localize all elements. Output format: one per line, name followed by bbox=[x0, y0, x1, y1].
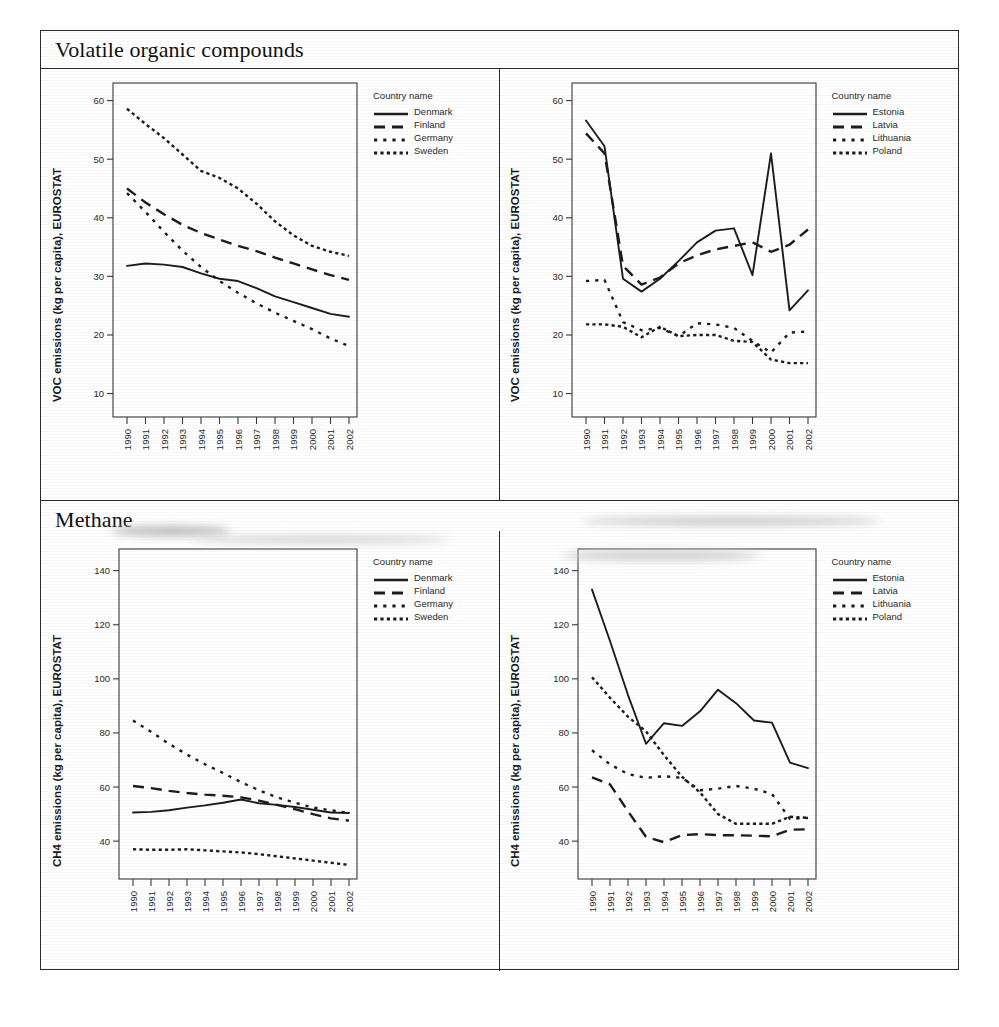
y-axis-label: CH4 emissions (kg per capita), EUROSTAT bbox=[47, 531, 67, 971]
svg-text:1992: 1992 bbox=[622, 891, 633, 912]
svg-text:1997: 1997 bbox=[710, 429, 721, 450]
svg-text:2000: 2000 bbox=[765, 429, 776, 450]
svg-text:2002: 2002 bbox=[344, 891, 355, 912]
section-title-voc: Volatile organic compounds bbox=[41, 31, 958, 69]
svg-text:1996: 1996 bbox=[233, 429, 244, 450]
panel-ch4-baltic: CH4 emissions (kg per capita), EUROSTAT … bbox=[500, 531, 959, 971]
svg-text:1992: 1992 bbox=[159, 429, 170, 450]
svg-text:1998: 1998 bbox=[272, 891, 283, 912]
legend-line-swatch-icon bbox=[832, 121, 868, 130]
svg-text:1998: 1998 bbox=[270, 429, 281, 450]
svg-text:1990: 1990 bbox=[128, 891, 139, 912]
svg-text:1992: 1992 bbox=[164, 891, 175, 912]
legend-title: Country name bbox=[832, 89, 912, 104]
legend-item-label: Sweden bbox=[414, 610, 448, 625]
legend-title: Country name bbox=[832, 555, 912, 570]
svg-text:30: 30 bbox=[93, 271, 104, 282]
svg-text:1993: 1993 bbox=[182, 891, 193, 912]
legend-item-latvia[interactable]: Latvia bbox=[832, 585, 912, 598]
svg-text:2001: 2001 bbox=[784, 429, 795, 450]
section-volatile-organic-compounds: Volatile organic compounds VOC emissions… bbox=[41, 31, 958, 501]
svg-text:2002: 2002 bbox=[344, 429, 355, 450]
legend-title: Country name bbox=[373, 555, 453, 570]
svg-text:40: 40 bbox=[93, 212, 104, 223]
legend-item-finland[interactable]: Finland bbox=[373, 585, 453, 598]
legend-item-lithuania[interactable]: Lithuania bbox=[832, 132, 912, 145]
legend-line-swatch-icon bbox=[373, 587, 409, 596]
svg-text:2000: 2000 bbox=[766, 891, 777, 912]
svg-text:50: 50 bbox=[552, 154, 563, 165]
legend-line-swatch-icon bbox=[832, 134, 868, 143]
legend-item-estonia[interactable]: Estonia bbox=[832, 106, 912, 119]
svg-text:50: 50 bbox=[93, 154, 104, 165]
legend-ch4-baltic: Country nameEstoniaLatviaLithuaniaPoland bbox=[832, 555, 912, 624]
svg-text:140: 140 bbox=[553, 565, 569, 576]
svg-text:20: 20 bbox=[552, 329, 563, 340]
svg-text:1994: 1994 bbox=[196, 429, 207, 450]
legend-item-label: Poland bbox=[873, 610, 903, 625]
legend-line-swatch-icon bbox=[373, 121, 409, 130]
svg-text:60: 60 bbox=[93, 95, 104, 106]
svg-text:30: 30 bbox=[552, 271, 563, 282]
legend-line-swatch-icon bbox=[373, 600, 409, 609]
svg-text:1994: 1994 bbox=[658, 891, 669, 912]
legend-item-sweden[interactable]: Sweden bbox=[373, 611, 453, 624]
y-axis-label: VOC emissions (kg per capita), EUROSTAT bbox=[47, 69, 67, 501]
legend-title: Country name bbox=[373, 89, 453, 104]
legend-line-swatch-icon bbox=[832, 600, 868, 609]
svg-text:80: 80 bbox=[558, 727, 569, 738]
svg-text:60: 60 bbox=[558, 782, 569, 793]
svg-text:1999: 1999 bbox=[747, 429, 758, 450]
legend-line-swatch-icon bbox=[373, 147, 409, 156]
legend-line-swatch-icon bbox=[373, 134, 409, 143]
legend-line-swatch-icon bbox=[832, 574, 868, 583]
legend-item-sweden[interactable]: Sweden bbox=[373, 145, 453, 158]
legend-item-germany[interactable]: Germany bbox=[373, 132, 453, 145]
svg-text:1998: 1998 bbox=[728, 429, 739, 450]
svg-text:1997: 1997 bbox=[251, 429, 262, 450]
legend-item-finland[interactable]: Finland bbox=[373, 119, 453, 132]
svg-text:80: 80 bbox=[99, 727, 110, 738]
legend-item-estonia[interactable]: Estonia bbox=[832, 572, 912, 585]
svg-text:20: 20 bbox=[93, 329, 104, 340]
legend-item-denmark[interactable]: Denmark bbox=[373, 572, 453, 585]
svg-text:1990: 1990 bbox=[580, 429, 591, 450]
svg-text:2000: 2000 bbox=[308, 891, 319, 912]
legend-item-germany[interactable]: Germany bbox=[373, 598, 453, 611]
svg-text:2002: 2002 bbox=[802, 891, 813, 912]
legend-item-lithuania[interactable]: Lithuania bbox=[832, 598, 912, 611]
svg-text:1995: 1995 bbox=[673, 429, 684, 450]
svg-text:1993: 1993 bbox=[636, 429, 647, 450]
svg-text:2000: 2000 bbox=[307, 429, 318, 450]
legend-line-swatch-icon bbox=[832, 613, 868, 622]
legend-item-poland[interactable]: Poland bbox=[832, 145, 912, 158]
svg-text:1998: 1998 bbox=[730, 891, 741, 912]
panel-voc-baltic: VOC emissions (kg per capita), EUROSTAT … bbox=[500, 69, 959, 501]
svg-text:1991: 1991 bbox=[146, 891, 157, 912]
svg-text:120: 120 bbox=[553, 619, 569, 630]
svg-text:60: 60 bbox=[552, 95, 563, 106]
svg-text:10: 10 bbox=[552, 388, 563, 399]
svg-text:2001: 2001 bbox=[784, 891, 795, 912]
y-axis-label: VOC emissions (kg per capita), EUROSTAT bbox=[506, 69, 526, 501]
svg-text:1991: 1991 bbox=[604, 891, 615, 912]
svg-text:1994: 1994 bbox=[200, 891, 211, 912]
svg-text:2002: 2002 bbox=[802, 429, 813, 450]
svg-text:120: 120 bbox=[94, 619, 110, 630]
svg-text:2001: 2001 bbox=[326, 891, 337, 912]
svg-text:1997: 1997 bbox=[254, 891, 265, 912]
svg-text:100: 100 bbox=[553, 673, 569, 684]
svg-text:1995: 1995 bbox=[214, 429, 225, 450]
svg-text:1992: 1992 bbox=[617, 429, 628, 450]
svg-text:1996: 1996 bbox=[691, 429, 702, 450]
legend-item-denmark[interactable]: Denmark bbox=[373, 106, 453, 119]
svg-text:40: 40 bbox=[552, 212, 563, 223]
legend-line-swatch-icon bbox=[373, 574, 409, 583]
svg-text:1997: 1997 bbox=[712, 891, 723, 912]
legend-item-latvia[interactable]: Latvia bbox=[832, 119, 912, 132]
panel-voc-nordic: VOC emissions (kg per capita), EUROSTAT … bbox=[41, 69, 500, 501]
legend-ch4-nordic: Country nameDenmarkFinlandGermanySweden bbox=[373, 555, 453, 624]
svg-text:100: 100 bbox=[94, 673, 110, 684]
svg-text:1999: 1999 bbox=[290, 891, 301, 912]
legend-item-poland[interactable]: Poland bbox=[832, 611, 912, 624]
